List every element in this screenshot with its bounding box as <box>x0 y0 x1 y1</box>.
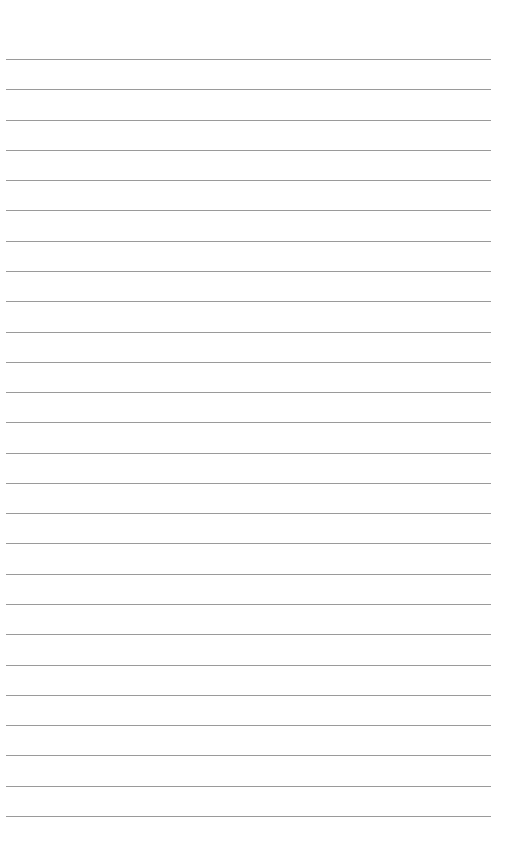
ruled-line <box>6 180 491 181</box>
ruled-line <box>6 483 491 484</box>
ruled-line <box>6 422 491 423</box>
ruled-line <box>6 634 491 635</box>
ruled-line <box>6 574 491 575</box>
ruled-line <box>6 271 491 272</box>
ruled-line <box>6 362 491 363</box>
ruled-line <box>6 59 491 60</box>
ruled-line <box>6 301 491 302</box>
ruled-line <box>6 332 491 333</box>
ruled-line <box>6 604 491 605</box>
ruled-line <box>6 150 491 151</box>
ruled-line <box>6 755 491 756</box>
ruled-line <box>6 786 491 787</box>
ruled-line <box>6 725 491 726</box>
lined-page <box>0 0 515 859</box>
ruled-line <box>6 543 491 544</box>
ruled-line <box>6 453 491 454</box>
ruled-line <box>6 695 491 696</box>
ruled-line <box>6 665 491 666</box>
ruled-line <box>6 89 491 90</box>
ruled-line <box>6 513 491 514</box>
ruled-line <box>6 816 491 817</box>
ruled-line <box>6 210 491 211</box>
ruled-line <box>6 392 491 393</box>
ruled-line <box>6 241 491 242</box>
ruled-line <box>6 120 491 121</box>
